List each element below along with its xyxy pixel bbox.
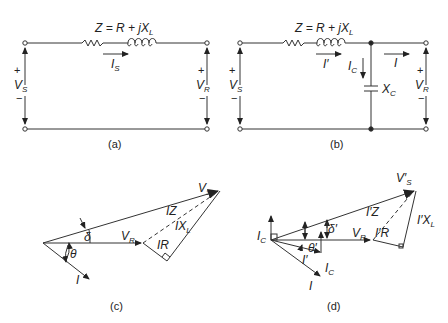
vs-prime-label-d: V′S bbox=[396, 171, 412, 187]
minus-sign: − bbox=[231, 92, 237, 104]
impedance-label-a: Z = R + jXL bbox=[94, 21, 153, 37]
terminal-icon bbox=[205, 41, 209, 45]
vs-label-c: VS bbox=[198, 181, 212, 197]
terminal-icon bbox=[238, 41, 242, 45]
current-label-b: I′ bbox=[323, 57, 329, 71]
caption-d: (d) bbox=[327, 300, 340, 312]
plus-sign: + bbox=[229, 64, 235, 76]
iprime-label-d: I′ bbox=[302, 253, 308, 267]
delta-label-c: δ bbox=[84, 230, 91, 244]
ixl-label-d: I′XL bbox=[417, 213, 435, 229]
load-current-label-b: I bbox=[394, 56, 398, 70]
theta-label-c: θ bbox=[70, 247, 77, 261]
plus-sign: + bbox=[14, 64, 20, 76]
terminal-icon bbox=[23, 41, 27, 45]
i-label-d: I bbox=[309, 279, 313, 293]
ixl-label-c: IXL bbox=[175, 219, 191, 235]
i-label-c: I bbox=[76, 273, 80, 287]
iz-label-c: IZ bbox=[166, 204, 177, 218]
resistor-icon bbox=[82, 40, 103, 46]
theta-label-d: θ′ bbox=[308, 241, 318, 255]
inductor-icon bbox=[128, 39, 156, 46]
cap-current-label-b: IC bbox=[348, 59, 357, 75]
inductor-icon bbox=[317, 39, 345, 46]
terminal-icon bbox=[424, 127, 428, 131]
terminal-icon bbox=[424, 41, 428, 45]
terminal-icon bbox=[238, 127, 242, 131]
phasor-panel-c bbox=[43, 191, 220, 279]
iz-label-d: I′Z bbox=[366, 205, 380, 219]
impedance-label-b: Z = R + jXL bbox=[294, 21, 353, 37]
caption-a: (a) bbox=[108, 138, 121, 150]
delta-label-d: δ′ bbox=[328, 222, 338, 236]
caption-c: (c) bbox=[110, 300, 123, 312]
resistor-icon bbox=[283, 40, 304, 46]
ir-label-c: IR bbox=[157, 238, 169, 252]
minus-sign: − bbox=[199, 92, 205, 104]
vr-label-c: VR bbox=[121, 229, 135, 245]
plus-sign: + bbox=[198, 64, 204, 76]
figure-transmission-line-phasors: Z = R + jXL IS + VS − + VR − (a) Z = R +… bbox=[0, 0, 448, 323]
current-label-a: IS bbox=[111, 57, 120, 73]
terminal-icon bbox=[23, 127, 27, 131]
ir-label-d: I′R bbox=[375, 226, 390, 240]
minus-sign: − bbox=[16, 92, 22, 104]
terminal-icon bbox=[205, 127, 209, 131]
caption-b: (b) bbox=[330, 138, 343, 150]
circuit-panel-a bbox=[23, 39, 209, 132]
ic-label-d: IC bbox=[325, 261, 334, 277]
capacitor-label-b: XC bbox=[381, 82, 396, 98]
plus-sign: + bbox=[417, 64, 423, 76]
phasor-panel-d bbox=[271, 191, 416, 276]
circuit-panel-b bbox=[238, 39, 428, 132]
vr-label-d: VR bbox=[352, 226, 366, 242]
minus-sign: − bbox=[418, 92, 424, 104]
ic-top-label-d: IC bbox=[257, 229, 266, 245]
